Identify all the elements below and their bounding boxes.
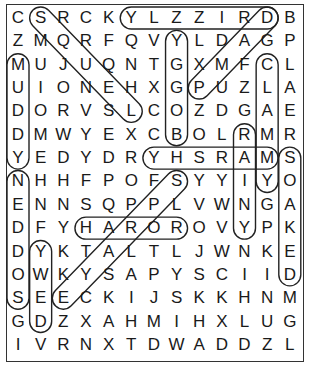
grid-letter[interactable]: U	[30, 54, 52, 76]
grid-letter[interactable]: M	[30, 30, 52, 52]
grid-letter[interactable]: R	[52, 7, 74, 29]
grid-letter[interactable]: O	[120, 170, 142, 192]
grid-letter[interactable]: U	[75, 54, 97, 76]
grid-letter[interactable]: L	[279, 54, 301, 76]
grid-letter[interactable]: S	[98, 264, 120, 286]
grid-letter[interactable]: P	[279, 30, 301, 52]
grid-letter[interactable]: K	[98, 7, 120, 29]
grid-letter[interactable]: E	[30, 147, 52, 169]
grid-letter[interactable]: G	[256, 194, 278, 216]
grid-letter[interactable]: H	[30, 170, 52, 192]
grid-letter[interactable]: E	[52, 287, 74, 309]
grid-letter[interactable]: T	[143, 241, 165, 263]
grid-letter[interactable]: F	[98, 30, 120, 52]
grid-letter[interactable]: X	[120, 124, 142, 146]
grid-letter[interactable]: R	[279, 124, 301, 146]
grid-letter[interactable]: O	[166, 100, 188, 122]
grid-letter[interactable]: I	[256, 264, 278, 286]
grid-letter[interactable]: R	[166, 217, 188, 239]
grid-letter[interactable]: I	[120, 287, 142, 309]
grid-letter[interactable]: D	[7, 217, 29, 239]
grid-letter[interactable]: O	[7, 264, 29, 286]
grid-letter[interactable]: J	[143, 287, 165, 309]
grid-letter[interactable]: T	[143, 54, 165, 76]
grid-letter[interactable]: R	[120, 147, 142, 169]
grid-letter[interactable]: N	[234, 241, 256, 263]
grid-letter[interactable]: A	[256, 100, 278, 122]
grid-letter[interactable]: S	[98, 100, 120, 122]
grid-letter[interactable]: K	[188, 287, 210, 309]
grid-letter[interactable]: C	[7, 7, 29, 29]
grid-letter[interactable]: D	[211, 334, 233, 356]
grid-letter[interactable]: P	[256, 217, 278, 239]
grid-letter[interactable]: R	[211, 147, 233, 169]
grid-letter[interactable]: Y	[75, 124, 97, 146]
grid-letter[interactable]: A	[120, 264, 142, 286]
grid-letter[interactable]: M	[279, 287, 301, 309]
grid-letter[interactable]: A	[98, 241, 120, 263]
grid-letter[interactable]: F	[30, 217, 52, 239]
grid-letter[interactable]: Y	[166, 30, 188, 52]
grid-letter[interactable]: J	[188, 241, 210, 263]
grid-letter[interactable]: L	[143, 7, 165, 29]
grid-letter[interactable]: Y	[166, 264, 188, 286]
grid-letter[interactable]: D	[30, 311, 52, 333]
grid-letter[interactable]: L	[234, 311, 256, 333]
grid-letter[interactable]: I	[30, 77, 52, 99]
grid-letter[interactable]: S	[75, 194, 97, 216]
grid-letter[interactable]: N	[30, 194, 52, 216]
grid-letter[interactable]: A	[279, 77, 301, 99]
grid-letter[interactable]: S	[7, 287, 29, 309]
grid-letter[interactable]: W	[166, 334, 188, 356]
grid-letter[interactable]: E	[30, 287, 52, 309]
grid-letter[interactable]: K	[256, 241, 278, 263]
grid-letter[interactable]: C	[211, 264, 233, 286]
grid-letter[interactable]: J	[52, 54, 74, 76]
grid-letter[interactable]: G	[234, 100, 256, 122]
grid-letter[interactable]: D	[234, 334, 256, 356]
grid-letter[interactable]: Q	[52, 30, 74, 52]
grid-letter[interactable]: Y	[75, 147, 97, 169]
grid-letter[interactable]: Y	[234, 217, 256, 239]
grid-letter[interactable]: N	[234, 194, 256, 216]
grid-letter[interactable]: C	[75, 287, 97, 309]
grid-letter[interactable]: X	[143, 77, 165, 99]
grid-letter[interactable]: I	[7, 334, 29, 356]
grid-letter[interactable]: S	[279, 147, 301, 169]
grid-letter[interactable]: N	[75, 334, 97, 356]
grid-letter[interactable]: Y	[30, 241, 52, 263]
grid-letter[interactable]: Z	[188, 7, 210, 29]
grid-letter[interactable]: P	[188, 77, 210, 99]
grid-letter[interactable]: V	[75, 100, 97, 122]
grid-letter[interactable]: E	[279, 241, 301, 263]
grid-letter[interactable]: P	[98, 170, 120, 192]
grid-letter[interactable]: O	[279, 170, 301, 192]
grid-letter[interactable]: F	[75, 170, 97, 192]
grid-letter[interactable]: Z	[256, 334, 278, 356]
grid-letter[interactable]: H	[120, 311, 142, 333]
grid-letter[interactable]: M	[256, 147, 278, 169]
grid-letter[interactable]: V	[30, 334, 52, 356]
grid-letter[interactable]: L	[166, 241, 188, 263]
grid-letter[interactable]: W	[30, 264, 52, 286]
grid-letter[interactable]: D	[211, 30, 233, 52]
grid-letter[interactable]: U	[256, 311, 278, 333]
grid-letter[interactable]: S	[188, 147, 210, 169]
grid-letter[interactable]: P	[143, 264, 165, 286]
grid-letter[interactable]: H	[188, 311, 210, 333]
grid-letter[interactable]: D	[211, 100, 233, 122]
grid-letter[interactable]: W	[211, 194, 233, 216]
grid-letter[interactable]: K	[98, 287, 120, 309]
grid-letter[interactable]: R	[75, 30, 97, 52]
grid-letter[interactable]: V	[211, 217, 233, 239]
grid-letter[interactable]: L	[120, 100, 142, 122]
grid-letter[interactable]: S	[188, 264, 210, 286]
grid-letter[interactable]: X	[211, 311, 233, 333]
grid-letter[interactable]: L	[279, 334, 301, 356]
grid-letter[interactable]: Y	[120, 7, 142, 29]
grid-letter[interactable]: O	[143, 217, 165, 239]
grid-letter[interactable]: K	[279, 217, 301, 239]
grid-letter[interactable]: Z	[188, 100, 210, 122]
grid-letter[interactable]: I	[166, 311, 188, 333]
grid-letter[interactable]: Y	[211, 170, 233, 192]
